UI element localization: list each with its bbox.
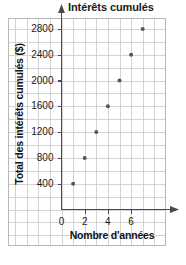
data-point: [141, 27, 145, 31]
x-axis-tick-label: 2: [75, 216, 95, 227]
chart-figure: Intérêts cumulés 40080012001600200024002…: [0, 0, 186, 265]
y-axis-label: Total des intérêts cumulés ($): [13, 19, 25, 209]
data-point: [118, 79, 122, 83]
x-axis-tick-label: 0: [52, 216, 72, 227]
data-point: [129, 53, 133, 57]
x-axis-tick-label: 4: [98, 216, 118, 227]
data-point: [94, 130, 98, 134]
data-point: [106, 104, 110, 108]
data-point: [71, 182, 75, 186]
x-axis-tick-label: 6: [121, 216, 141, 227]
data-point: [83, 156, 87, 160]
x-axis-label: Nombre d'années: [52, 229, 172, 241]
